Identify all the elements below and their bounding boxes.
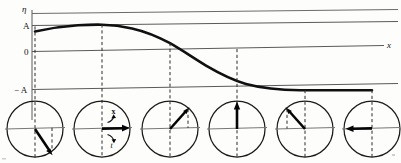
phasor-amplitude-label: x	[112, 107, 116, 116]
y-tick-label-plus-a: A	[23, 21, 30, 31]
wave-curve	[35, 25, 372, 91]
figure-canvas: η A 0 − A x	[0, 0, 401, 163]
x-axis-label: x	[386, 40, 391, 50]
phasor-vector-1	[35, 129, 51, 152]
phasor-time-label: t	[111, 141, 114, 150]
wave-phasor-figure: η A 0 − A x	[0, 0, 401, 163]
gridline-minus-a	[32, 84, 398, 90]
top-border-line	[32, 10, 398, 14]
y-tick-label-zero: 0	[24, 47, 29, 57]
phasor-arrowhead-4	[234, 102, 240, 110]
phasor-vector-5	[289, 111, 306, 130]
scan-speck-2	[2, 158, 6, 160]
phasor-vector-3	[170, 111, 187, 130]
y-axis-label: η	[22, 4, 27, 14]
y-tick-label-minus-a: − A	[14, 85, 28, 95]
phasor-arrowhead-6	[346, 125, 354, 132]
phasor-circle-6	[342, 101, 400, 157]
x-axis	[32, 46, 384, 52]
scan-speck	[392, 154, 395, 156]
phasor-arrowhead-2	[122, 125, 130, 132]
